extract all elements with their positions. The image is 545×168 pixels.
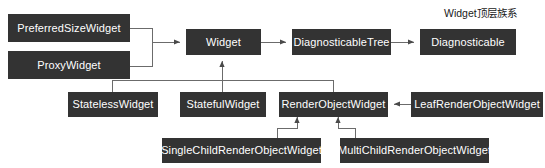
class-hierarchy-diagram: Widget顶层族系 PreferredSizeWidget ProxyWidg… [0,0,545,168]
node-multi-child-render-object-widget[interactable]: MultiChildRenderObjectWidget [340,138,489,163]
node-label: RenderObjectWidget [282,99,386,110]
node-label: DiagnosticableTree [293,37,389,48]
edge-preferredsizewidget-to-widget [130,28,152,42]
node-diagnosticable[interactable]: Diagnosticable [420,29,516,55]
node-label: StatefulWidget [187,99,260,110]
node-label: Widget [206,37,241,48]
node-label: Diagnosticable [431,37,505,48]
node-label: ProxyWidget [37,60,100,71]
node-leaf-render-object-widget[interactable]: LeafRenderObjectWidget [411,92,543,117]
edge-singlechildrenderobjectwidget-to-renderobjectwidget [277,123,297,138]
node-label: MultiChildRenderObjectWidget [338,145,491,156]
node-label: PreferredSizeWidget [17,23,120,34]
node-single-child-render-object-widget[interactable]: SingleChildRenderObjectWidget [162,138,321,163]
diagram-title: Widget顶层族系 [444,8,517,19]
node-label: SingleChildRenderObjectWidget [161,145,322,156]
node-label: StatelessWidget [73,99,154,110]
node-stateful-widget[interactable]: StatefulWidget [180,92,266,117]
node-diagnosticable-tree[interactable]: DiagnosticableTree [292,29,391,55]
node-stateless-widget[interactable]: StatelessWidget [68,92,158,117]
node-preferred-size-widget[interactable]: PreferredSizeWidget [8,14,130,42]
edge-proxywidget-to-widget [130,42,152,66]
edge-multichildrenderobjectwidget-to-renderobjectwidget [338,123,355,138]
node-label: LeafRenderObjectWidget [414,99,540,110]
node-proxy-widget[interactable]: ProxyWidget [8,51,130,79]
node-render-object-widget[interactable]: RenderObjectWidget [279,92,388,117]
node-widget[interactable]: Widget [186,29,261,55]
